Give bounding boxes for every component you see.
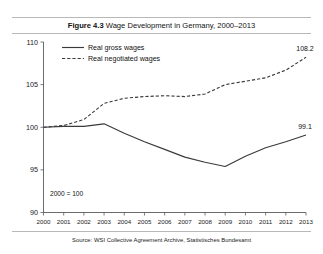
x-tick-label: 2011 [259,218,273,225]
x-axis-ticks: 2000200120022003200420052006200720082009… [37,213,314,225]
top-divider [12,17,311,18]
x-tick-label: 2005 [138,218,152,225]
x-tick-label: 2001 [57,218,71,225]
chart-legend: Real gross wages Real negotiated wages [62,44,161,63]
x-tick-label: 2013 [299,218,313,225]
x-tick-label: 2009 [218,218,232,225]
series-real-gross-wages [44,124,307,167]
y-tick-label: 95 [30,165,38,174]
series-real-negotiated-wages [44,57,307,127]
chart-plot-area: 9095100105110 20002001200220032004200520… [0,34,323,229]
legend-label-real-gross-wages: Real gross wages [88,44,145,52]
x-tick-label: 2006 [158,218,172,225]
figure-container: Figure 4.3 Wage Development in Germany, … [0,0,323,254]
chart-axes [44,42,307,213]
x-tick-label: 2012 [279,218,293,225]
y-tick-label: 110 [27,38,38,47]
data-label-gross-end: 99.1 [298,123,312,130]
y-tick-label: 105 [26,80,38,89]
x-tick-label: 2007 [178,218,192,225]
x-tick-label: 2004 [117,218,131,225]
figure-source: Source: WSI Collective Agreement Archive… [12,236,311,245]
y-axis-ticks: 9095100105110 [26,38,44,218]
legend-label-real-negotiated-wages: Real negotiated wages [88,55,161,63]
figure-title: Figure 4.3 Wage Development in Germany, … [12,20,311,31]
x-tick-label: 2003 [97,218,111,225]
y-tick-label: 90 [30,208,38,217]
data-label-negotiated-end: 108.2 [296,45,314,52]
x-tick-label: 2000 [37,218,51,225]
figure-number: Figure 4.3 [68,21,104,30]
y-tick-label: 100 [26,123,38,132]
x-tick-label: 2008 [198,218,212,225]
x-tick-label: 2002 [77,218,91,225]
x-tick-label: 2010 [239,218,253,225]
figure-title-text: Wage Development in Germany, 2000–2013 [104,21,256,30]
base-year-note: 2000 = 100 [50,190,84,197]
source-divider [12,231,311,232]
